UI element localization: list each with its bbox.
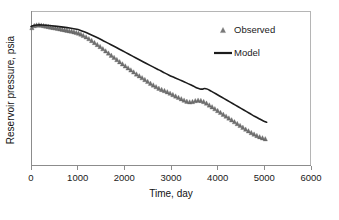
x-tick-label: 0 xyxy=(28,172,33,183)
y-axis-title: Reservoir pressure, psia xyxy=(5,35,16,144)
x-tick-label: 6000 xyxy=(300,172,321,183)
x-tick-label: 2000 xyxy=(114,172,135,183)
legend-observed-label: Observed xyxy=(234,24,275,35)
x-tick-label: 1000 xyxy=(67,172,88,183)
chart-background xyxy=(0,0,339,220)
x-axis-title: Time, day xyxy=(149,188,193,199)
x-tick-label: 5000 xyxy=(254,172,275,183)
legend-model-label: Model xyxy=(234,47,260,58)
x-tick-label: 4000 xyxy=(207,172,228,183)
x-tick-label: 3000 xyxy=(160,172,181,183)
chart-figure: 0100020003000400050006000 Time, day Rese… xyxy=(0,0,339,220)
reservoir-pressure-chart: 0100020003000400050006000 Time, day Rese… xyxy=(0,0,339,220)
